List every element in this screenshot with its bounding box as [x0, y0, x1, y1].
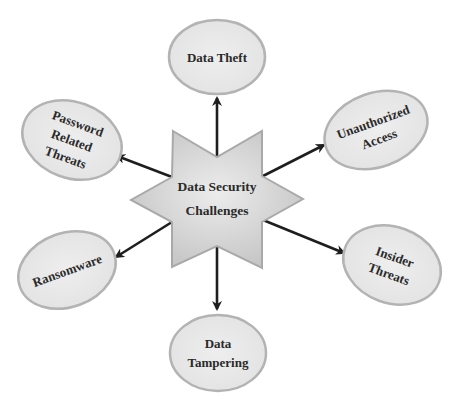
node-label-tampering: Tampering	[188, 355, 249, 370]
diagram-canvas: Data Security Challenges Data Theft Unau…	[0, 0, 459, 399]
center-label-line-1: Data Security	[177, 179, 256, 194]
node-data-theft: Data Theft	[169, 20, 265, 94]
node-label-data: Data	[205, 336, 232, 351]
center-label-line-2: Challenges	[185, 203, 248, 218]
node-unauthorized-access: Unauthorized Access	[314, 77, 439, 183]
node-insider-threats: Insider Threats	[332, 212, 452, 318]
node-data-tampering: Data Tampering	[170, 315, 266, 391]
arrow-to-insider-threats	[263, 220, 344, 253]
node-ransomware: Ransomware	[7, 218, 126, 322]
arrow-to-ransomware	[116, 222, 172, 257]
diagram-svg: Data Security Challenges Data Theft Unau…	[0, 0, 459, 399]
node-password-related-threats: Password Related Threats	[11, 87, 133, 193]
arrow-to-unauthorized-access	[263, 145, 324, 176]
node-label-data-theft: Data Theft	[187, 50, 248, 65]
arrow-to-password-related-threats	[117, 156, 172, 177]
